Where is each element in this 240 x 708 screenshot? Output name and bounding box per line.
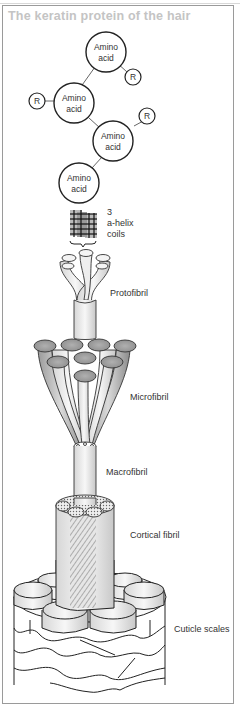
cuticle-scales (14, 560, 166, 692)
svg-text:Amino: Amino (67, 173, 91, 183)
amino-acid-4: Amino acid (59, 163, 99, 203)
helix-label-type: a-helix (107, 218, 134, 228)
macrofibril (74, 446, 96, 500)
helix-label-count: 3 (107, 207, 112, 217)
microfibril (34, 339, 136, 450)
svg-text:acid: acid (66, 104, 82, 114)
amino-acid-2: Amino acid (54, 83, 94, 123)
svg-text:acid: acid (105, 142, 121, 152)
macrofibril-label: Macrofibril (106, 467, 148, 477)
protofibril (60, 250, 110, 340)
svg-text:R: R (144, 111, 150, 121)
microfibril-label: Microfibril (130, 392, 169, 402)
cortical-fibril-label: Cortical fibril (130, 530, 180, 540)
r-group-2: R (29, 93, 45, 109)
cuticle-scales-label: Cuticle scales (174, 624, 230, 634)
r-group-1: R (125, 69, 141, 85)
helix-label-coils: coils (107, 229, 126, 239)
svg-text:acid: acid (71, 184, 87, 194)
amino-acid-3: Amino acid (93, 121, 133, 161)
svg-text:Amino: Amino (101, 131, 125, 141)
amino-acid-1: Amino acid (86, 32, 126, 72)
svg-text:Amino: Amino (62, 93, 86, 103)
keratin-diagram: Amino acid R Amino acid R Amino acid R A… (0, 0, 240, 708)
svg-text:R: R (130, 72, 136, 82)
alpha-helix-coils (70, 210, 97, 247)
svg-text:R: R (34, 96, 40, 106)
r-group-3: R (139, 108, 155, 124)
svg-text:acid: acid (98, 53, 114, 63)
protofibril-label: Protofibril (110, 288, 148, 298)
svg-text:Amino: Amino (94, 42, 118, 52)
